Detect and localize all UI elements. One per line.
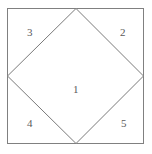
geometry-figure	[0, 0, 152, 154]
region-label-center: 1	[73, 84, 79, 95]
figure-canvas: 1 2 3 4 5	[0, 0, 152, 154]
region-label-bottom-left: 4	[27, 118, 33, 129]
region-label-top-right: 2	[120, 27, 126, 38]
region-label-bottom-right: 5	[121, 118, 127, 129]
region-label-top-left: 3	[27, 27, 33, 38]
